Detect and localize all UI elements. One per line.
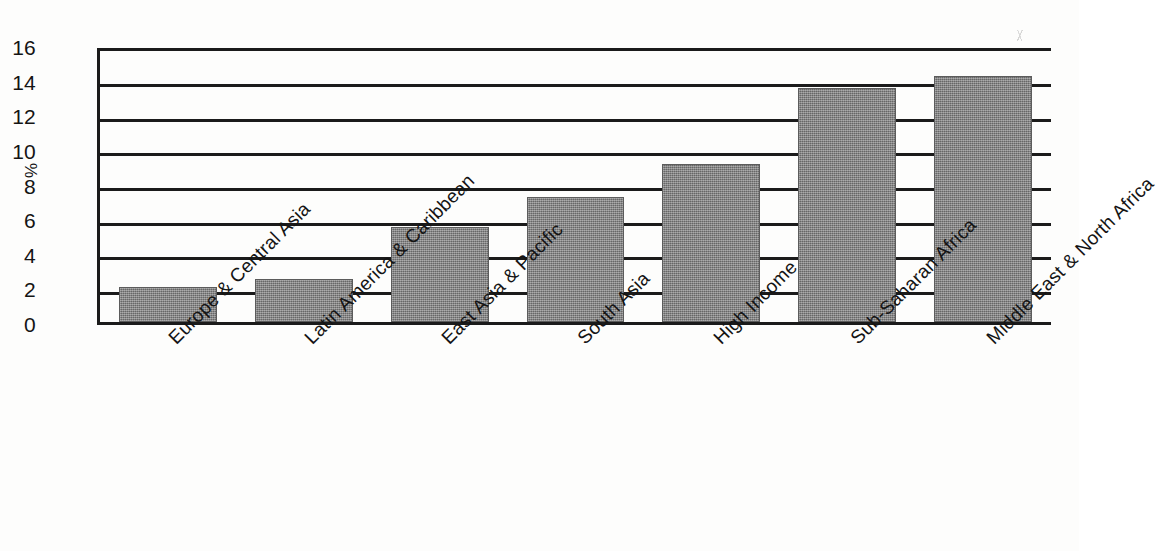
bar-slot bbox=[643, 51, 779, 322]
x-label-slot: Europe & Central Asia bbox=[97, 328, 233, 528]
y-axis-tick-label: 8 bbox=[0, 176, 36, 197]
x-label-slot: East Asia & Pacific bbox=[370, 328, 506, 528]
x-label-slot: Latin America & Caribbean bbox=[233, 328, 369, 528]
scanner-speck-icon bbox=[1013, 30, 1027, 41]
bar[interactable] bbox=[934, 76, 1032, 322]
y-axis-tick-label: 2 bbox=[0, 279, 36, 300]
bar-slot bbox=[915, 51, 1051, 322]
figure-caption-clipped bbox=[130, 545, 690, 551]
bar[interactable] bbox=[798, 88, 896, 322]
y-axis-tick-label: 6 bbox=[0, 210, 36, 231]
y-axis-tick-label: 16 bbox=[0, 37, 36, 58]
y-axis-tick-label: 4 bbox=[0, 245, 36, 266]
y-axis-tick-label: 14 bbox=[0, 72, 36, 93]
x-axis-category-labels: Europe & Central AsiaLatin America & Car… bbox=[97, 328, 1051, 528]
bar-slot bbox=[779, 51, 915, 322]
x-label-slot: Sub-Saharan Africa bbox=[778, 328, 914, 528]
x-label-slot: Middle East & North Africa bbox=[915, 328, 1051, 528]
y-axis-tick-label: 12 bbox=[0, 106, 36, 127]
y-axis-tick-label: 10 bbox=[0, 141, 36, 162]
x-label-slot: High Income bbox=[642, 328, 778, 528]
y-axis-tick-label: 0 bbox=[0, 314, 36, 335]
bar-slot bbox=[372, 51, 508, 322]
x-label-slot: South Asia bbox=[506, 328, 642, 528]
bar-slot bbox=[508, 51, 644, 322]
